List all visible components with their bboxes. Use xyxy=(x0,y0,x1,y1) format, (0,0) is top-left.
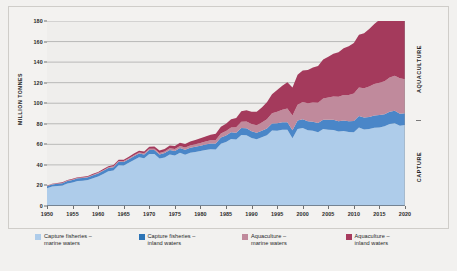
chart-page: MILLION TONNES 180160140120100806040200 … xyxy=(0,0,457,271)
y-axis-tick-mark xyxy=(44,103,47,104)
x-axis-tick-label: 2000 xyxy=(297,211,309,217)
legend-item[interactable]: Capture fisheries – marine waters xyxy=(35,233,139,263)
y-axis-tick-label: 120 xyxy=(33,80,43,86)
x-axis-tick-label: 1980 xyxy=(194,211,206,217)
legend-item-label: Aquaculture – inland waters xyxy=(355,233,390,248)
y-axis-tick-mark xyxy=(44,164,47,165)
legend-item[interactable]: Aquaculture – marine waters xyxy=(242,233,346,263)
x-axis-tick-mark xyxy=(175,206,176,209)
side-label-capture: CAPTURE xyxy=(416,152,422,182)
legend-swatch-icon xyxy=(242,234,248,240)
y-axis-tick-mark xyxy=(44,21,47,22)
y-axis-tick-label: 0 xyxy=(40,203,43,209)
stacked-area-plot xyxy=(47,21,405,206)
x-axis-tick-mark xyxy=(277,206,278,209)
plot-area: 180160140120100806040200 195019551960196… xyxy=(47,21,405,206)
x-axis-tick-mark xyxy=(98,206,99,209)
x-axis-tick-mark xyxy=(149,206,150,209)
y-axis-tick-mark xyxy=(44,82,47,83)
legend-swatch-icon xyxy=(346,234,352,240)
side-label-divider-tick xyxy=(416,120,421,121)
x-axis-tick-label: 2015 xyxy=(373,211,385,217)
x-axis-tick-mark xyxy=(354,206,355,209)
y-axis-title: MILLION TONNES xyxy=(17,73,23,125)
area-chart-svg xyxy=(47,21,405,206)
chart-panel: MILLION TONNES 180160140120100806040200 … xyxy=(8,6,449,229)
x-axis-tick-label: 1950 xyxy=(41,211,53,217)
y-axis-tick-mark xyxy=(44,144,47,145)
x-axis-tick-label: 2005 xyxy=(322,211,334,217)
y-axis-tick-label: 140 xyxy=(33,59,43,65)
legend-item-label: Capture fisheries – marine waters xyxy=(44,233,92,248)
y-axis-tick-label: 180 xyxy=(33,18,43,24)
y-axis-tick-label: 40 xyxy=(37,162,43,168)
legend-item[interactable]: Aquaculture – inland waters xyxy=(346,233,450,263)
y-axis-tick-label: 80 xyxy=(37,121,43,127)
x-axis-tick-mark xyxy=(226,206,227,209)
x-axis-tick-mark xyxy=(124,206,125,209)
legend-item[interactable]: Capture fisheries – inland waters xyxy=(139,233,243,263)
y-axis-tick-label: 160 xyxy=(33,39,43,45)
y-axis-tick-mark xyxy=(44,123,47,124)
legend-item-label: Capture fisheries – inland waters xyxy=(148,233,196,248)
x-axis-tick-label: 1965 xyxy=(118,211,130,217)
x-axis-tick-mark xyxy=(47,206,48,209)
x-axis-tick-label: 2020 xyxy=(399,211,411,217)
x-axis-tick-label: 1955 xyxy=(66,211,78,217)
x-axis-tick-mark xyxy=(328,206,329,209)
chart-legend: Capture fisheries – marine watersCapture… xyxy=(8,233,449,263)
y-axis-tick-mark xyxy=(44,62,47,63)
x-axis-tick-mark xyxy=(303,206,304,209)
legend-item-label: Aquaculture – marine waters xyxy=(251,233,287,248)
x-axis-tick-label: 1985 xyxy=(220,211,232,217)
x-axis-tick-label: 1970 xyxy=(143,211,155,217)
x-axis-tick-mark xyxy=(200,206,201,209)
x-axis: 1950195519601965197019751980198519901995… xyxy=(47,206,405,224)
x-axis-tick-mark xyxy=(405,206,406,209)
y-axis-tick-label: 100 xyxy=(33,100,43,106)
x-axis-tick-mark xyxy=(73,206,74,209)
x-axis-tick-label: 2010 xyxy=(348,211,360,217)
y-axis-tick-mark xyxy=(44,185,47,186)
y-axis-tick-mark xyxy=(44,41,47,42)
y-axis-tick-label: 60 xyxy=(37,141,43,147)
y-axis-tick-label: 20 xyxy=(37,182,43,188)
side-label-aquaculture: AQUACULTURE xyxy=(416,45,422,93)
x-axis-tick-label: 1960 xyxy=(92,211,104,217)
x-axis-tick-mark xyxy=(379,206,380,209)
x-axis-tick-label: 1990 xyxy=(245,211,257,217)
legend-swatch-icon xyxy=(35,234,41,240)
x-axis-tick-label: 1995 xyxy=(271,211,283,217)
x-axis-tick-mark xyxy=(252,206,253,209)
x-axis-tick-label: 1975 xyxy=(169,211,181,217)
legend-swatch-icon xyxy=(139,234,145,240)
